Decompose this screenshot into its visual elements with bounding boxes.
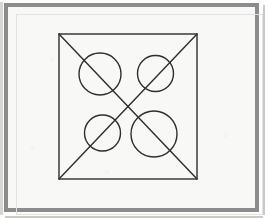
circle-top-right bbox=[138, 56, 174, 92]
line-drawing: Square with diagonals and four inscribed… bbox=[0, 0, 265, 218]
circle-top-left bbox=[79, 53, 121, 95]
ink-group bbox=[59, 34, 197, 179]
screenshot-canvas: Square with diagonals and four inscribed… bbox=[0, 0, 265, 218]
